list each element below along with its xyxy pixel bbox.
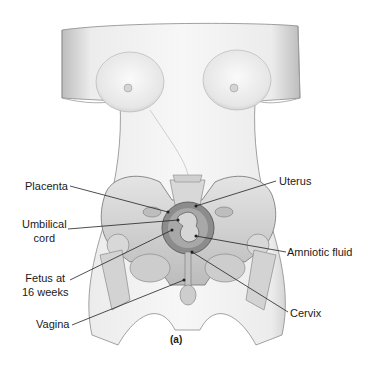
anatomy-figure: Placenta Umbilical cord Fetus at 16 week… <box>0 0 374 369</box>
label-vagina: Vagina <box>36 317 69 331</box>
label-cervix: Cervix <box>290 306 321 320</box>
label-fetus: Fetus at 16 weeks <box>22 271 68 299</box>
breast-left <box>96 52 164 112</box>
label-placenta: Placenta <box>25 179 68 193</box>
label-uterus: Uterus <box>279 174 311 188</box>
figure-caption: (a) <box>170 334 182 345</box>
label-umbilical-cord: Umbilical cord <box>22 217 67 245</box>
label-amniotic-fluid: Amniotic fluid <box>287 245 352 259</box>
breast-right <box>203 50 271 110</box>
